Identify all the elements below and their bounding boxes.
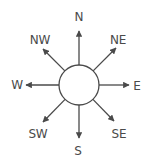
label-east: E [133,80,140,92]
label-west: W [11,79,23,91]
center-circle [59,65,99,105]
arrow-se [93,99,114,121]
label-southwest: SW [28,128,47,140]
label-south: S [74,145,81,157]
label-northwest: NW [30,34,50,46]
compass-rose: N NE E SE S SW W NW [0,0,146,166]
label-northeast: NE [110,34,126,46]
label-southeast: SE [112,128,127,140]
arrow-sw [43,99,65,122]
arrow-ne [93,48,116,71]
label-north: N [75,11,84,23]
arrow-nw [43,49,65,71]
